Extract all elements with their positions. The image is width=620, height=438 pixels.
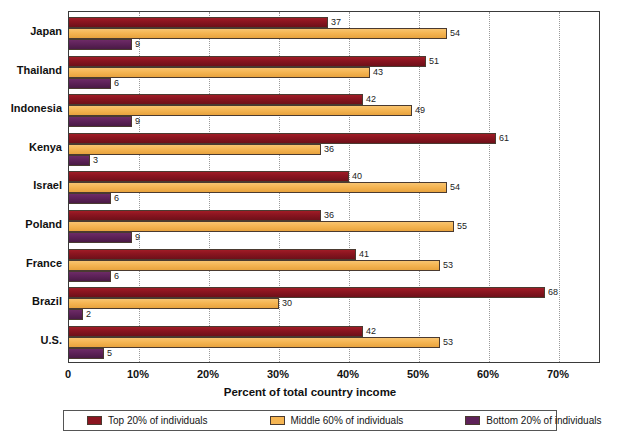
bar-value-label: 6 <box>112 193 119 204</box>
bar-group: 36559 <box>69 210 599 244</box>
bar-value-label: 68 <box>546 287 558 298</box>
bar-indonesia-top <box>69 94 363 105</box>
legend-label: Top 20% of individuals <box>108 415 208 426</box>
bar-israel-bottom <box>69 193 111 204</box>
bar-value-label: 55 <box>455 221 467 232</box>
bar-group: 42535 <box>69 326 599 360</box>
bar-value-label: 42 <box>364 326 376 337</box>
plot-area: 3754951436424996136340546365594153668302… <box>68 11 600 363</box>
bar-group: 51436 <box>69 56 599 90</box>
bar-value-label: 9 <box>133 232 140 243</box>
bar-indonesia-middle <box>69 105 412 116</box>
bar-france-top <box>69 249 356 260</box>
income-distribution-bar-chart: JapanThailandIndonesiaKenyaIsraelPolandF… <box>0 0 620 438</box>
bar-israel-middle <box>69 182 447 193</box>
bar-indonesia-bottom <box>69 116 132 127</box>
bar-value-label: 30 <box>280 298 292 309</box>
bar-brazil-top <box>69 287 545 298</box>
legend-swatch-icon <box>270 416 285 425</box>
bar-value-label: 51 <box>427 56 439 67</box>
bar-value-label: 9 <box>133 116 140 127</box>
category-label-poland: Poland <box>0 218 62 230</box>
category-label-france: France <box>0 257 62 269</box>
legend-item: Top 20% of individuals <box>87 415 208 426</box>
bar-kenya-top <box>69 133 496 144</box>
bar-value-label: 42 <box>364 94 376 105</box>
bar-brazil-middle <box>69 298 279 309</box>
bar-poland-bottom <box>69 232 132 243</box>
bar-us-bottom <box>69 348 104 359</box>
bar-value-label: 43 <box>371 67 383 78</box>
bar-us-middle <box>69 337 440 348</box>
bar-value-label: 53 <box>441 337 453 348</box>
x-tick-50%: 50% <box>407 368 429 380</box>
category-label-us: U.S. <box>0 334 62 346</box>
x-axis-title: Percent of total country income <box>0 386 620 398</box>
bar-group: 42499 <box>69 94 599 128</box>
bar-france-middle <box>69 260 440 271</box>
bar-brazil-bottom <box>69 309 83 320</box>
bar-group: 68302 <box>69 287 599 321</box>
bar-thailand-bottom <box>69 78 111 89</box>
bar-france-bottom <box>69 271 111 282</box>
bar-value-label: 54 <box>448 182 460 193</box>
bar-value-label: 6 <box>112 271 119 282</box>
x-tick-0: 0 <box>65 368 71 380</box>
x-tick-40%: 40% <box>337 368 359 380</box>
legend-item: Bottom 20% of individuals <box>465 415 601 426</box>
bar-value-label: 36 <box>322 144 334 155</box>
x-tick-20%: 20% <box>197 368 219 380</box>
bar-kenya-middle <box>69 144 321 155</box>
category-label-thailand: Thailand <box>0 64 62 76</box>
bar-value-label: 6 <box>112 78 119 89</box>
bar-value-label: 5 <box>105 348 112 359</box>
legend-swatch-icon <box>465 416 480 425</box>
category-label-brazil: Brazil <box>0 295 62 307</box>
category-label-kenya: Kenya <box>0 141 62 153</box>
bar-value-label: 37 <box>329 17 341 28</box>
bar-group: 61363 <box>69 133 599 167</box>
bar-value-label: 3 <box>91 155 98 166</box>
bar-japan-top <box>69 17 328 28</box>
bar-kenya-bottom <box>69 155 90 166</box>
bar-value-label: 41 <box>357 249 369 260</box>
bar-value-label: 40 <box>350 171 362 182</box>
category-label-indonesia: Indonesia <box>0 102 62 114</box>
bar-value-label: 9 <box>133 39 140 50</box>
bar-thailand-top <box>69 56 426 67</box>
legend-swatch-icon <box>87 416 102 425</box>
bar-thailand-middle <box>69 67 370 78</box>
bar-group: 41536 <box>69 249 599 283</box>
bar-israel-top <box>69 171 349 182</box>
bar-japan-bottom <box>69 39 132 50</box>
x-tick-10%: 10% <box>127 368 149 380</box>
legend-label: Middle 60% of individuals <box>291 415 404 426</box>
bar-japan-middle <box>69 28 447 39</box>
bar-value-label: 36 <box>322 210 334 221</box>
bar-value-label: 54 <box>448 28 460 39</box>
legend-label: Bottom 20% of individuals <box>486 415 601 426</box>
x-tick-30%: 30% <box>267 368 289 380</box>
bar-poland-middle <box>69 221 454 232</box>
bar-value-label: 49 <box>413 105 425 116</box>
x-tick-70%: 70% <box>547 368 569 380</box>
bar-value-label: 53 <box>441 260 453 271</box>
bar-us-top <box>69 326 363 337</box>
bar-poland-top <box>69 210 321 221</box>
category-label-japan: Japan <box>0 25 62 37</box>
category-label-israel: Israel <box>0 179 62 191</box>
bar-value-label: 61 <box>497 133 509 144</box>
bar-value-label: 2 <box>84 309 91 320</box>
bar-group: 37549 <box>69 17 599 51</box>
legend-item: Middle 60% of individuals <box>270 415 404 426</box>
x-tick-60%: 60% <box>477 368 499 380</box>
chart-legend: Top 20% of individualsMiddle 60% of indi… <box>63 410 557 431</box>
bar-group: 40546 <box>69 171 599 205</box>
